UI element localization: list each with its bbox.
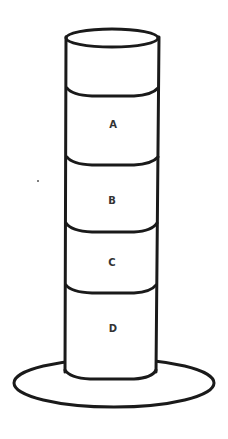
layer-label-b: B — [108, 195, 116, 206]
stray-dot — [37, 180, 39, 182]
layered-cylinder-diagram: A B C D — [0, 0, 228, 439]
layer-label-c: C — [108, 257, 115, 268]
layer-label-a: A — [109, 119, 117, 130]
layer-label-d: D — [109, 323, 117, 334]
